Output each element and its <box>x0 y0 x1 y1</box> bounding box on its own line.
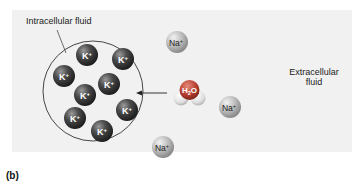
potassium-ion: K+ <box>91 120 113 142</box>
potassium-ion: K+ <box>116 99 138 121</box>
extracellular-label-line2: fluid <box>283 77 345 87</box>
water-molecule: H2O <box>174 80 206 106</box>
potassium-ion: K+ <box>76 44 98 66</box>
sodium-ion: Na+ <box>219 96 241 118</box>
osmosis-arrow <box>136 91 167 96</box>
sodium-ion: Na+ <box>152 136 174 158</box>
sodium-ion: Na+ <box>166 31 188 53</box>
intracellular-fluid-label: Intracellular fluid <box>26 16 92 26</box>
potassium-ions: K+ K+ K+ K+ K+ K+ K+ K+ <box>53 44 138 142</box>
extracellular-label-line1: Extracellular <box>283 67 345 77</box>
ion-diagram: K+ K+ K+ K+ K+ K+ K+ K+ H2O Na+ Na+ Na+ <box>0 0 364 186</box>
potassium-ion: K+ <box>112 48 134 70</box>
potassium-ion: K+ <box>53 65 75 87</box>
potassium-ion: K+ <box>74 84 96 106</box>
potassium-ion: K+ <box>98 73 120 95</box>
extracellular-fluid-label: Extracellular fluid <box>283 67 345 87</box>
potassium-ion: K+ <box>64 107 86 129</box>
panel-label: (b) <box>6 170 19 181</box>
